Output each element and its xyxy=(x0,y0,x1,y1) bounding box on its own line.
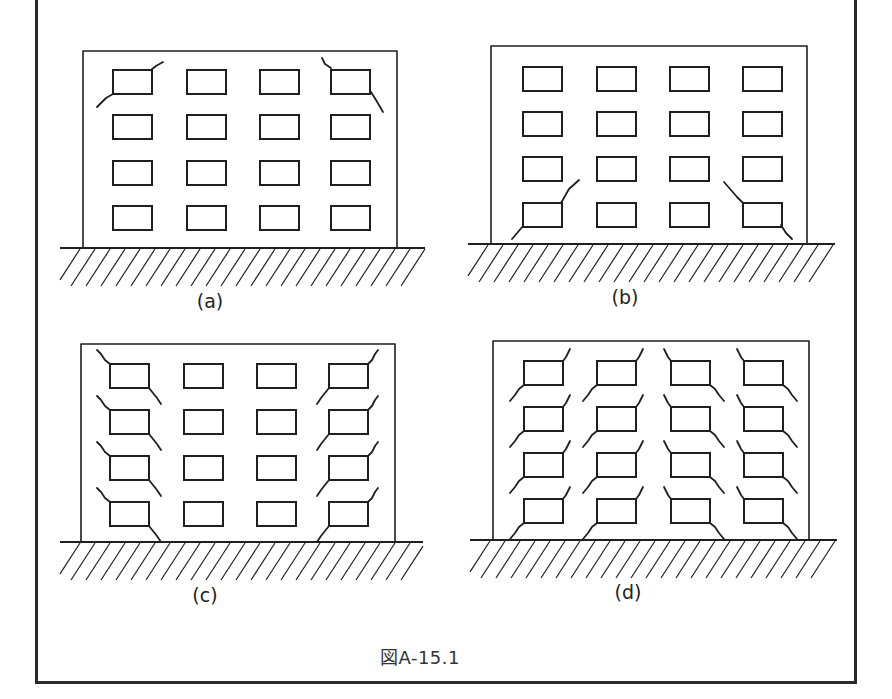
ground-hatch-b xyxy=(704,245,728,282)
ground-hatch-a xyxy=(236,249,260,286)
crack-d-r1c3-top xyxy=(664,349,671,361)
window-d-r2c4 xyxy=(744,407,783,431)
ground-hatch-c xyxy=(131,543,155,580)
ground-hatch-a xyxy=(206,249,230,286)
window-b-r4c3 xyxy=(670,203,709,227)
ground-hatch-b xyxy=(749,245,773,282)
window-d-r3c3 xyxy=(671,453,710,477)
window-b-r4c1 xyxy=(523,203,562,227)
crack-a-1 xyxy=(151,62,163,70)
ground-hatch-c xyxy=(86,543,110,580)
window-c-r4c4 xyxy=(329,502,368,526)
window-d-r1c1 xyxy=(524,361,563,385)
window-c-r3c3 xyxy=(257,456,296,480)
window-c-r1c3 xyxy=(257,364,296,388)
ground-hatch-b xyxy=(734,245,758,282)
ground-hatch-b xyxy=(599,245,623,282)
ground-hatch-a xyxy=(60,249,80,280)
window-d-r2c1 xyxy=(524,407,563,431)
crack-d-r3c1-top xyxy=(563,441,570,453)
ground-hatch-d xyxy=(661,541,685,578)
window-d-r2c3 xyxy=(671,407,710,431)
crack-d-r2c1-top xyxy=(563,395,570,407)
window-d-r2c2 xyxy=(597,407,636,431)
window-b-r1c2 xyxy=(597,67,636,91)
window-b-r2c2 xyxy=(597,112,636,136)
window-d-r3c4 xyxy=(744,453,783,477)
ground-hatch-d xyxy=(691,541,715,578)
window-a-r4c1 xyxy=(113,206,152,230)
ground-hatch-d xyxy=(586,541,610,578)
ground-hatch-b xyxy=(524,245,548,282)
crack-c-right-bottom-4 xyxy=(317,526,329,542)
building-outline-a xyxy=(83,51,397,248)
ground-hatch-b xyxy=(719,245,743,282)
ground-hatch-d xyxy=(526,541,550,578)
ground-hatch-c xyxy=(116,543,140,580)
ground-hatch-b xyxy=(554,245,578,282)
window-c-r2c2 xyxy=(184,410,223,434)
ground-hatch-c xyxy=(341,543,365,580)
window-d-r3c2 xyxy=(597,453,636,477)
ground-hatch-b xyxy=(479,245,503,282)
ground-hatch-c xyxy=(356,543,380,580)
window-a-r4c3 xyxy=(260,206,299,230)
ground-hatch-b xyxy=(614,245,638,282)
ground-hatch-d xyxy=(646,541,670,578)
building-outline-c xyxy=(81,344,395,542)
window-d-r4c2 xyxy=(597,499,636,523)
ground-hatch-d xyxy=(496,541,520,578)
window-c-r4c3 xyxy=(257,502,296,526)
crack-b-3 xyxy=(724,182,743,203)
ground-hatch-c xyxy=(221,543,245,580)
panel-label-a: (a) xyxy=(180,290,240,312)
crack-d-r4c4-top xyxy=(737,487,744,499)
ground-hatch-b xyxy=(674,245,698,282)
ground-hatch-b xyxy=(809,245,833,282)
ground-hatch-c xyxy=(281,543,305,580)
ground-hatch-c xyxy=(266,543,290,580)
ground-hatch-b xyxy=(689,245,713,282)
crack-d-r3c3-bottom xyxy=(710,477,724,493)
window-b-r4c2 xyxy=(597,203,636,227)
crack-a-2 xyxy=(97,94,113,107)
panel-label-b: (b) xyxy=(595,286,655,308)
ground-hatch-a xyxy=(191,249,215,286)
window-a-r1c2 xyxy=(187,70,226,94)
window-c-r2c1 xyxy=(110,410,149,434)
ground-hatch-a xyxy=(341,249,365,286)
crack-c-left-bottom-4 xyxy=(149,526,161,542)
crack-d-r2c4-bottom xyxy=(783,431,797,447)
panel-label-d: (d) xyxy=(598,581,658,603)
ground-hatch-a xyxy=(221,249,245,286)
ground-hatch-d xyxy=(766,541,790,578)
window-d-r1c4 xyxy=(744,361,783,385)
crack-d-r1c1-bottom xyxy=(510,385,524,401)
window-c-r3c1 xyxy=(110,456,149,480)
crack-d-r4c1-top xyxy=(563,487,570,499)
ground-hatch-a xyxy=(356,249,380,286)
ground-hatch-b xyxy=(629,245,653,282)
window-b-r1c4 xyxy=(743,67,782,91)
ground-hatch-b xyxy=(584,245,608,282)
crack-c-right-bottom-3 xyxy=(317,480,329,496)
ground-hatch-c xyxy=(60,543,80,574)
window-d-r3c1 xyxy=(524,453,563,477)
window-a-r2c1 xyxy=(113,115,152,139)
ground-hatch-a xyxy=(371,249,395,286)
ground-hatch-c xyxy=(251,543,275,580)
building-outline-d xyxy=(493,341,809,540)
crack-d-r4c3-top xyxy=(664,487,671,499)
ground-hatch-a xyxy=(311,249,335,286)
ground-hatch-d xyxy=(751,541,775,578)
ground-hatch-d xyxy=(811,541,835,578)
ground-hatch-d xyxy=(470,541,490,572)
crack-c-left-bottom-1 xyxy=(149,388,161,404)
window-c-r4c2 xyxy=(184,502,223,526)
window-c-r1c2 xyxy=(184,364,223,388)
window-a-r3c1 xyxy=(113,161,152,185)
ground-hatch-c xyxy=(311,543,335,580)
building-outline-b xyxy=(491,46,807,243)
window-c-r2c4 xyxy=(329,410,368,434)
ground-hatch-b xyxy=(494,245,518,282)
